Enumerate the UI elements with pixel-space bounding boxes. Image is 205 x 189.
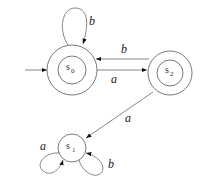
edge-s1-loop-b: b	[79, 153, 114, 175]
state-s2-label: s2	[165, 64, 174, 78]
state-s2: s2	[148, 51, 192, 95]
state-s1-label: s1	[66, 140, 76, 154]
edge-s2-s1-a: a	[86, 92, 153, 138]
edge-s1-loop-a-label: a	[40, 139, 46, 153]
edge-s0-loop-b: b	[62, 8, 95, 45]
edge-s1-loop-a: a	[40, 139, 63, 173]
edge-s2-s1-label: a	[125, 111, 131, 125]
edge-s0-s2-a: a	[97, 70, 147, 86]
state-s0-label: s0	[66, 61, 75, 75]
edge-s2-s0-b: b	[96, 42, 149, 59]
state-s0: s0	[47, 45, 97, 95]
edge-s1-loop-b-label: b	[108, 157, 114, 171]
state-diagram: s0 s2 s1 b b a a a b	[0, 0, 205, 189]
edge-s0-loop-label: b	[89, 14, 95, 28]
state-s1: s1	[58, 134, 86, 162]
edge-s0-s2-label: a	[111, 72, 117, 86]
edge-s2-s0-label: b	[121, 42, 127, 56]
